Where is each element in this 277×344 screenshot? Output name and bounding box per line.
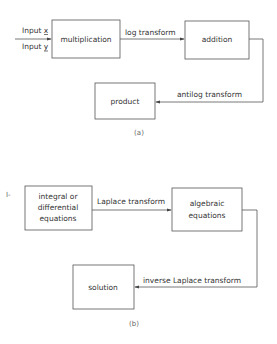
integral-label-line1: integral or xyxy=(39,192,79,201)
integral-label-line3: equations xyxy=(40,214,77,223)
algebraic-label-line1: algebraic xyxy=(190,199,225,208)
solution-label: solution xyxy=(88,283,118,292)
algebraic-label-line2: equations xyxy=(189,211,226,220)
laplace-transform-label: Laplace transform xyxy=(97,197,165,206)
algebraic-equations-box xyxy=(172,188,242,231)
caption-b: (b) xyxy=(129,320,139,328)
input-y-label: Input y xyxy=(22,42,49,51)
multiplication-label: multiplication xyxy=(60,35,111,44)
product-label: product xyxy=(111,97,140,106)
marker-label: I- xyxy=(6,191,11,199)
inverse-laplace-label: inverse Laplace transform xyxy=(143,276,241,285)
addition-label: addition xyxy=(202,35,233,44)
log-transform-label: log transform xyxy=(125,28,176,37)
integral-label-line2: differential xyxy=(38,203,79,212)
antilog-transform-label: antilog transform xyxy=(177,90,242,99)
caption-a: (a) xyxy=(134,129,144,137)
diagram-a: Input x Input y multiplication log trans… xyxy=(15,20,263,137)
input-x-label: Input x xyxy=(22,26,49,35)
diagram-canvas: Input x Input y multiplication log trans… xyxy=(0,0,277,344)
diagram-b: I- integral or differential equations La… xyxy=(6,186,257,328)
